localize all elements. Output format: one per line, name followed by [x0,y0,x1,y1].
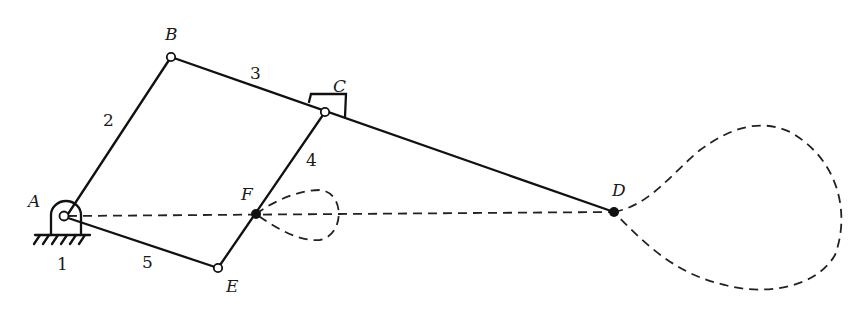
label-link-5: 5 [142,252,153,272]
label-link-3: 3 [250,63,261,83]
label-c: C [333,76,346,96]
label-b: B [164,24,178,44]
label-a: A [26,191,40,211]
label-f: F [240,184,254,204]
linkage-diagram: A B C D E F 1 2 3 4 5 [0,0,865,311]
label-e: E [225,276,239,296]
label-link-4: 4 [306,150,317,170]
joint-a [60,212,69,221]
link-2-ab [68,57,171,214]
point-d [609,207,619,217]
coupler-curve-d [614,126,841,290]
link-4-ce [218,112,325,268]
label-link-1: 1 [57,254,68,274]
dashed-line-ad [68,212,612,216]
joint-c [321,108,329,116]
label-d: D [611,180,626,200]
point-f [251,209,261,219]
joint-e [214,264,222,272]
label-link-2: 2 [103,110,114,130]
joint-b [167,53,175,61]
link-3-bd [171,57,614,212]
